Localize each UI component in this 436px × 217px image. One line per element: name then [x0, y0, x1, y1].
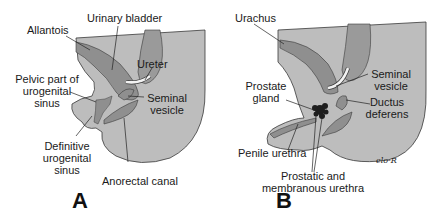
label-allantois: Allantois — [27, 24, 69, 36]
label-definitive-urogenital-sinus: Definitive urogenital sinus — [40, 140, 94, 176]
label-ureter: Ureter — [137, 58, 168, 70]
panel-letter-a: A — [72, 188, 88, 214]
artist-signature: elo-R — [376, 156, 397, 165]
label-seminal-vesicle: Seminal vesicle — [368, 68, 414, 92]
label-seminal-vesicle: Seminal vesicle — [144, 92, 190, 116]
label-ductus-deferens: Ductus deferens — [362, 96, 412, 120]
label-urachus: Urachus — [235, 12, 276, 24]
label-prostate-gland: Prostate gland — [244, 80, 288, 104]
label-penile-urethra: Penile urethra — [238, 147, 307, 159]
label-anorectal-canal: Anorectal canal — [102, 175, 178, 187]
panel-b: Urachus Seminal vesicle Prostate gland D… — [218, 0, 436, 217]
panel-a: Urinary bladder Allantois Ureter Pelvic … — [0, 0, 218, 217]
label-prostatic-membranous-urethra: Prostatic and membranous urethra — [258, 170, 368, 194]
panel-letter-b: B — [276, 188, 292, 214]
label-urinary-bladder: Urinary bladder — [87, 12, 162, 24]
label-pelvic-part-urogenital-sinus: Pelvic part of urogenital sinus — [14, 73, 80, 109]
